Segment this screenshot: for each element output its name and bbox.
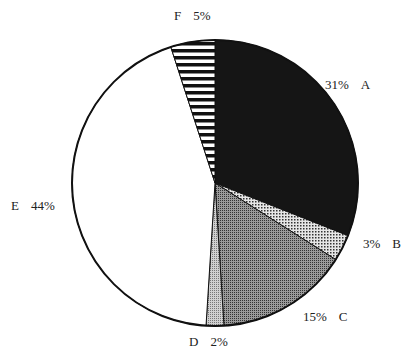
label-D-pct: 2%	[210, 334, 227, 350]
label-F: F5%	[174, 8, 211, 24]
label-C: 15%C	[303, 309, 348, 325]
label-D: D2%	[189, 334, 228, 350]
label-C-name: C	[339, 309, 348, 325]
label-B: 3%B	[363, 236, 401, 252]
label-A-pct: 31%	[325, 77, 349, 93]
label-E-pct: 44%	[31, 198, 55, 214]
label-B-pct: 3%	[363, 236, 380, 252]
label-D-name: D	[189, 334, 198, 350]
label-E: E44%	[11, 198, 55, 214]
label-A: 31%A	[325, 77, 370, 93]
label-C-pct: 15%	[303, 309, 327, 325]
pie-chart	[0, 0, 408, 356]
label-A-name: A	[361, 77, 370, 93]
label-E-name: E	[11, 198, 19, 214]
label-B-name: B	[392, 236, 401, 252]
pie-slices	[72, 40, 358, 326]
label-F-name: F	[174, 8, 181, 24]
label-F-pct: 5%	[193, 8, 210, 24]
